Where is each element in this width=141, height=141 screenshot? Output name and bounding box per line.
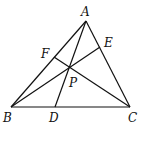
label-p: P [68, 76, 78, 90]
triangle-diagram: A B C D E F P [0, 0, 141, 141]
label-d: D [48, 111, 59, 125]
label-f: F [40, 47, 50, 61]
segments [11, 21, 130, 107]
label-a: A [80, 5, 90, 19]
side-ca [86, 21, 130, 107]
label-b: B [2, 111, 12, 125]
cevian-ad [55, 21, 86, 107]
cevian-cf [54, 57, 130, 107]
label-e: E [103, 36, 113, 50]
label-c: C [128, 111, 137, 125]
